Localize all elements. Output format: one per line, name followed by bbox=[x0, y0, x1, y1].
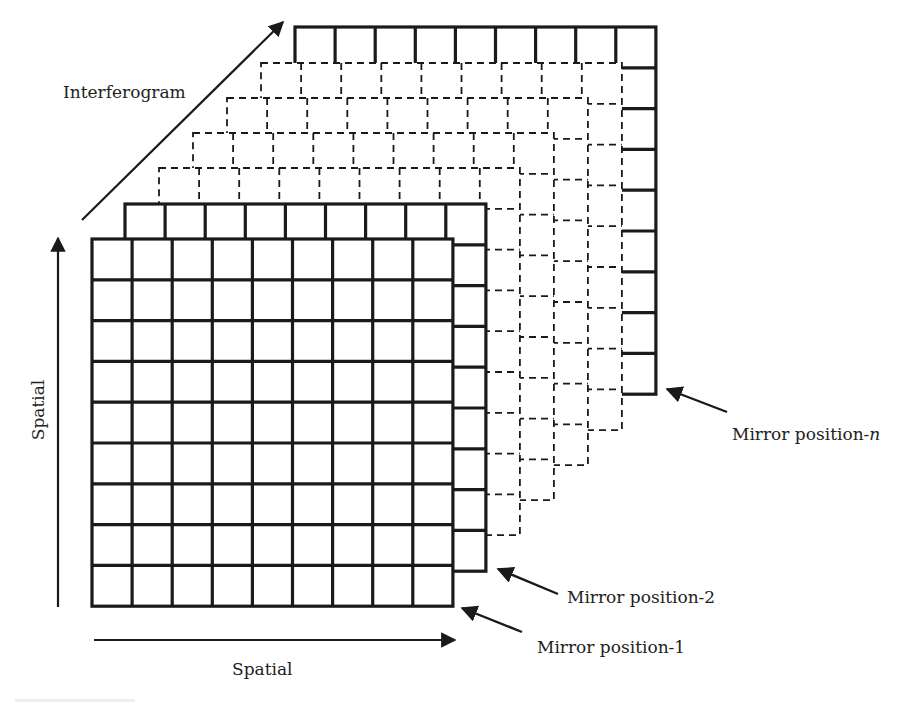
callout-arrow bbox=[498, 569, 558, 594]
interferogram-axis-label: Interferogram bbox=[63, 82, 186, 102]
callout-mirror-position-2: Mirror position-2 bbox=[498, 569, 715, 607]
callout-arrow bbox=[667, 389, 727, 412]
frame-mirror-position-1 bbox=[92, 239, 453, 606]
callout-mirror-position-n: Mirror position-n bbox=[667, 389, 880, 444]
callout-mirror-position-1: Mirror position-1 bbox=[462, 608, 685, 657]
callout-arrow bbox=[462, 608, 522, 632]
callout-label: Mirror position-1 bbox=[537, 637, 685, 657]
spatial-horizontal-axis-label: Spatial bbox=[232, 659, 293, 679]
frame-stack bbox=[92, 27, 656, 606]
interferogram-cube-diagram: Interferogram Spatial Spatial Mirror pos… bbox=[0, 0, 913, 704]
spatial-vertical-axis-label: Spatial bbox=[28, 380, 48, 441]
callout-label: Mirror position-n bbox=[732, 424, 880, 444]
caption-remnant bbox=[15, 699, 135, 702]
callout-label: Mirror position-2 bbox=[567, 587, 715, 607]
